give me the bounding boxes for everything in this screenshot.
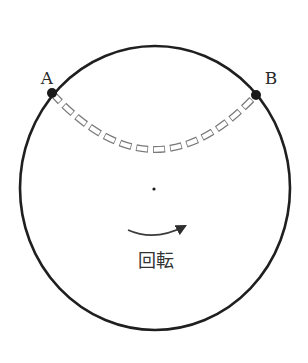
point-a-label: A <box>40 68 54 88</box>
dashed-path-a-to-b <box>52 93 256 150</box>
point-b-label: B <box>265 68 278 88</box>
center-dot <box>152 187 155 190</box>
point-a-marker <box>47 88 57 98</box>
rotation-label: 回転 <box>138 250 174 271</box>
point-b-marker <box>251 90 261 100</box>
rotating-disk-diagram: A B 回転 <box>0 0 308 363</box>
rotation-arrow-icon <box>128 226 185 235</box>
